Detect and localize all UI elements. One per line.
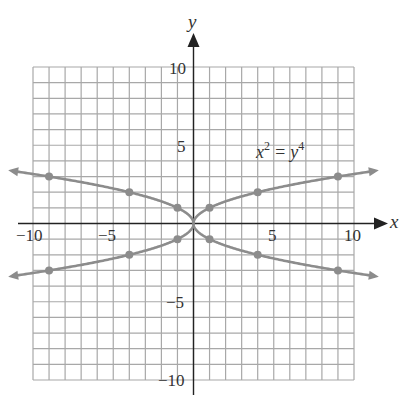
- x-tick-label-10: 10: [344, 226, 361, 245]
- x-axis-label: x: [389, 211, 399, 232]
- y-tick-label-neg5: −5: [166, 293, 184, 312]
- curve-arrow-icon: [368, 167, 379, 176]
- eq-exp-y: 4: [298, 139, 304, 153]
- y-tick-label-5: 5: [177, 137, 186, 156]
- curve-arrow-icon: [368, 271, 379, 280]
- eq-equals: =: [274, 142, 286, 162]
- curve-arrow-icon: [8, 167, 19, 176]
- curve-branch: [194, 171, 375, 224]
- coordinate-plane: −10 −5 5 10 10 5 −5 −10 x y x2=y4: [0, 0, 409, 418]
- data-point: [125, 188, 133, 196]
- data-point: [254, 188, 262, 196]
- y-tick-label-neg10: −10: [158, 371, 185, 390]
- graph-figure: −10 −5 5 10 10 5 −5 −10 x y x2=y4: [0, 0, 409, 418]
- curve-branch: [12, 171, 193, 224]
- y-axis-label: y: [186, 11, 197, 32]
- data-point: [125, 251, 133, 259]
- data-point: [173, 204, 181, 212]
- x-tick-label-neg5: −5: [98, 226, 116, 245]
- data-point: [206, 204, 214, 212]
- axes: [18, 33, 388, 395]
- y-axis-arrow-icon: [188, 33, 200, 47]
- data-point: [173, 235, 181, 243]
- data-point: [334, 173, 342, 181]
- curve-arrow-icon: [8, 271, 19, 280]
- data-point: [334, 266, 342, 274]
- eq-base-x: x: [255, 142, 264, 162]
- data-point: [45, 173, 53, 181]
- data-point: [45, 266, 53, 274]
- eq-exp-x: 2: [264, 139, 270, 153]
- x-tick-label-5: 5: [268, 226, 277, 245]
- data-point: [206, 235, 214, 243]
- equation-label: x2=y4: [255, 139, 304, 162]
- y-tick-label-10: 10: [169, 59, 186, 78]
- x-tick-label-neg10: −10: [16, 226, 43, 245]
- x-axis-arrow-icon: [374, 218, 388, 230]
- eq-base-y: y: [288, 142, 298, 162]
- data-point: [254, 251, 262, 259]
